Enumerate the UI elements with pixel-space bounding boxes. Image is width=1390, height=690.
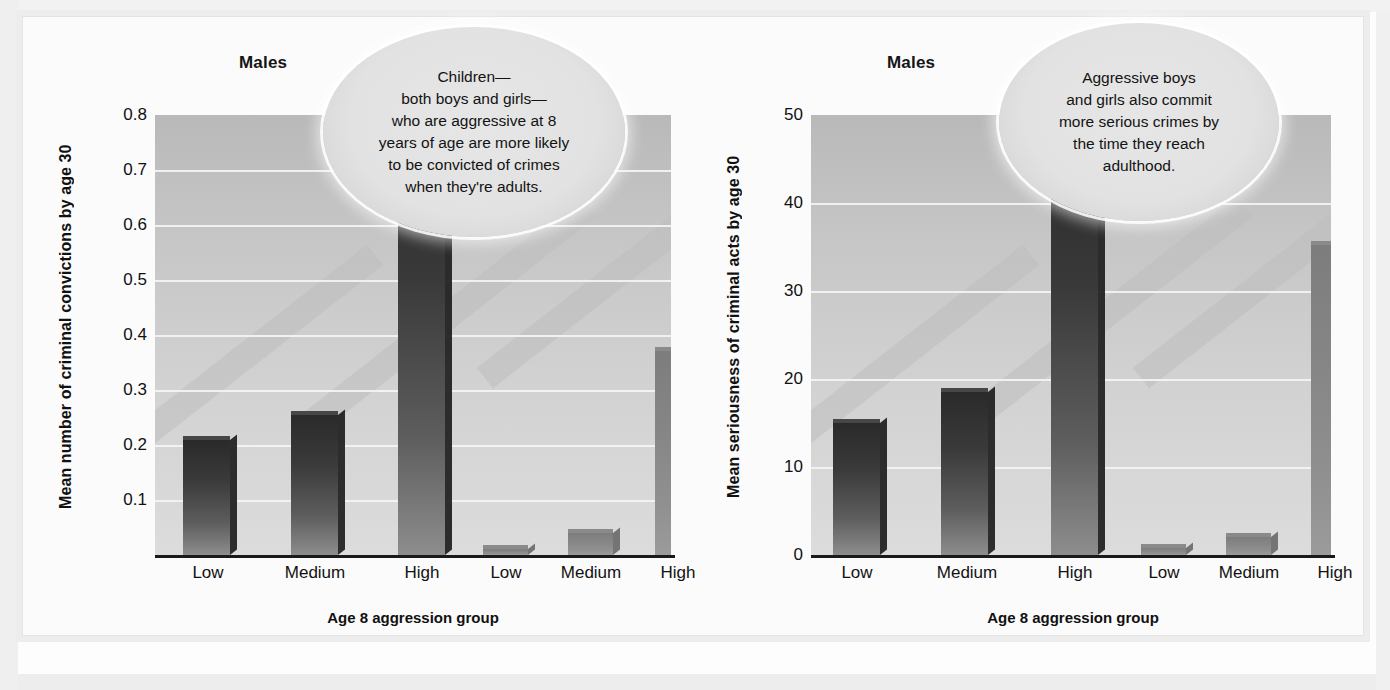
x-tick-males-high: High: [405, 563, 440, 583]
callout-text: Aggressive boys and girls also commit mo…: [1059, 67, 1219, 177]
decorative-stripe: [155, 245, 383, 469]
y-tick: 0.6: [123, 215, 147, 235]
x-tick-males-high: High: [1058, 563, 1093, 583]
y-axis-title: Mean number of criminal convictions by a…: [57, 101, 75, 553]
bar-cap: [183, 436, 230, 440]
x-axis-line: [155, 555, 675, 558]
y-tick: 30: [784, 281, 803, 301]
bar-females-medium: [1226, 537, 1271, 555]
y-tick: 0.1: [123, 490, 147, 510]
bar-cap: [483, 545, 528, 549]
x-tick-males-low: Low: [841, 563, 872, 583]
bar-males-low: [183, 440, 230, 555]
figure-page: Males Females Mean number of criminal co…: [0, 0, 1390, 690]
y-tick: 40: [784, 193, 803, 213]
callout-bubble: Children— both boys and girls— who are a…: [323, 27, 625, 237]
y-tick: 50: [784, 105, 803, 125]
x-axis-title: Age 8 aggression group: [987, 609, 1159, 626]
figure-frame: Males Females Mean number of criminal co…: [22, 16, 1364, 636]
group-header-males: Males: [887, 53, 935, 73]
bar-cap: [941, 388, 988, 392]
bar-side: [1271, 532, 1278, 555]
x-axis-line: [811, 555, 1335, 558]
group-header-males: Males: [239, 53, 287, 73]
y-tick: 0.8: [123, 105, 147, 125]
bar-cap: [1141, 544, 1186, 548]
bar-cap: [1311, 241, 1331, 245]
bar-females-high: [1311, 245, 1331, 555]
bar-males-medium: [291, 415, 338, 555]
bar-side: [230, 435, 237, 555]
bar-cap: [568, 529, 613, 533]
callout-bubble: Aggressive boys and girls also commit mo…: [999, 23, 1279, 221]
y-tick: 0.7: [123, 160, 147, 180]
bar-males-medium: [941, 392, 988, 555]
x-tick-females-high: High: [661, 563, 696, 583]
y-axis-ticks: 50 40 30 20 10 0: [755, 115, 803, 555]
bar-side: [338, 410, 345, 555]
y-tick: 10: [784, 457, 803, 477]
x-tick-males-medium: Medium: [285, 563, 345, 583]
bar-females-low: [1141, 548, 1186, 555]
y-tick: 0.4: [123, 325, 147, 345]
bar-side: [528, 544, 535, 555]
bar-cap: [1226, 533, 1271, 537]
bar-females-high: [655, 351, 671, 555]
bar-males-low: [833, 423, 880, 555]
chart-panel-convictions: Males Females Mean number of criminal co…: [23, 17, 699, 635]
x-tick-females-medium: Medium: [561, 563, 621, 583]
y-axis-ticks: 0.8 0.7 0.6 0.5 0.4 0.3 0.2 0.1: [85, 115, 147, 555]
bar-females-medium: [568, 533, 613, 555]
callout-text: Children— both boys and girls— who are a…: [379, 66, 569, 198]
chart-panel-seriousness: Males Females Mean seriousness of crimin…: [699, 17, 1363, 635]
bar-side: [1186, 543, 1193, 555]
y-tick: 0.3: [123, 380, 147, 400]
bar-cap: [655, 347, 671, 351]
y-tick: 0.2: [123, 435, 147, 455]
x-tick-males-low: Low: [192, 563, 223, 583]
x-tick-females-medium: Medium: [1219, 563, 1279, 583]
x-tick-males-medium: Medium: [937, 563, 997, 583]
bar-cap: [833, 419, 880, 423]
bar-side: [613, 528, 620, 555]
y-axis-title: Mean seriousness of criminal acts by age…: [725, 101, 743, 553]
y-tick: 0.5: [123, 270, 147, 290]
y-tick: 0: [794, 545, 803, 565]
y-tick: 20: [784, 369, 803, 389]
x-tick-females-low: Low: [490, 563, 521, 583]
x-tick-females-high: High: [1318, 563, 1353, 583]
bar-side: [988, 387, 995, 555]
x-axis-title: Age 8 aggression group: [327, 609, 499, 626]
x-tick-females-low: Low: [1148, 563, 1179, 583]
bar-side: [880, 418, 887, 555]
bar-cap: [291, 411, 338, 415]
